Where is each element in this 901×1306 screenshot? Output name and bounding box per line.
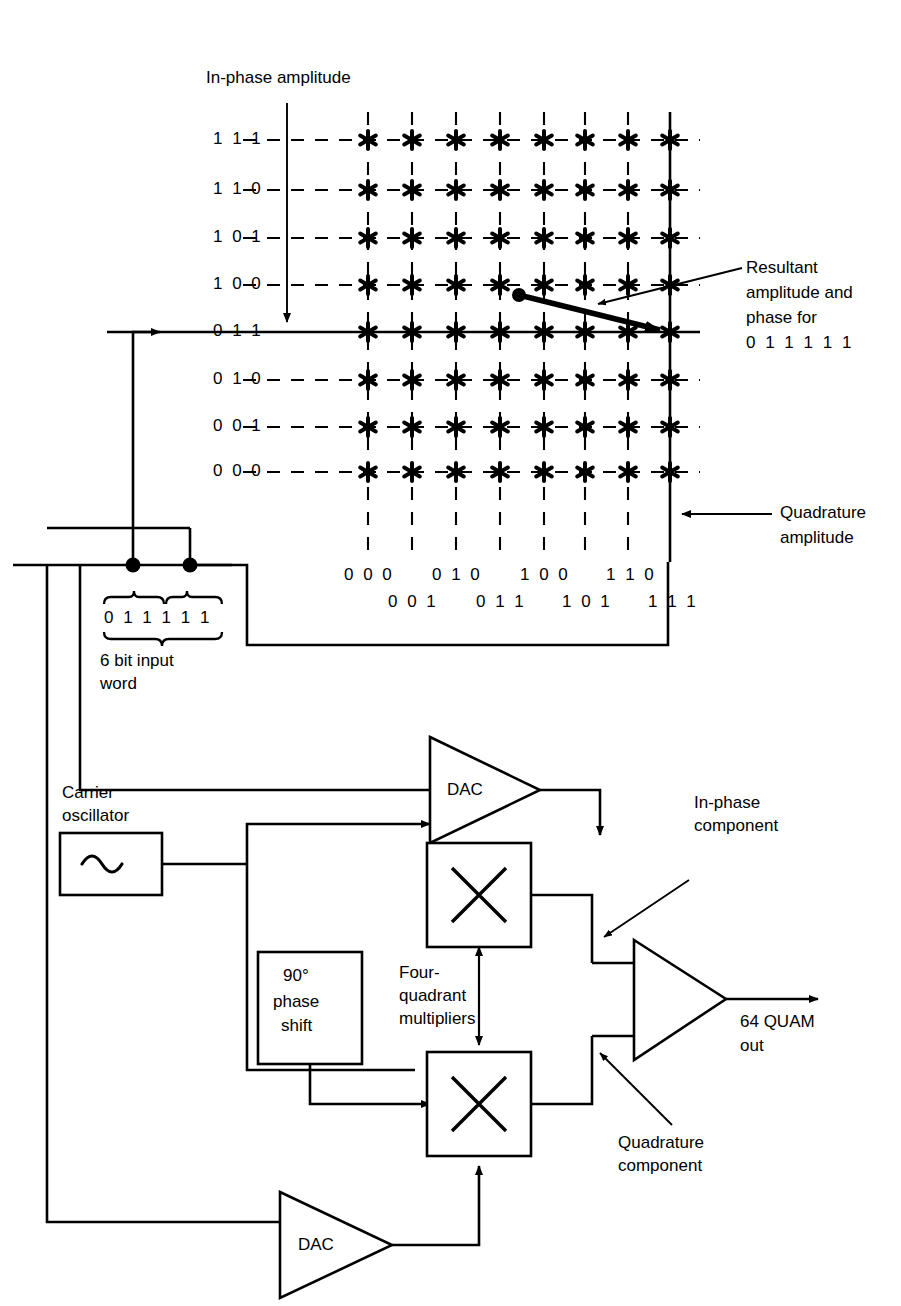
- carrier-oscillator-block: [60, 824, 430, 1070]
- y-label-010: 0 1 0: [213, 369, 263, 388]
- input-word-caption-2: word: [100, 674, 137, 693]
- wire-i-component: [531, 895, 592, 963]
- resultant-word: 0 1 1 1 1 1: [746, 333, 854, 352]
- phase-shift-line-1: 90°: [283, 966, 309, 985]
- inphase-component-1: In-phase: [694, 793, 760, 812]
- phase-shift-line-2: phase: [273, 992, 319, 1011]
- x-label-100: 1 0 0: [520, 565, 570, 584]
- x-label-000: 0 0 0: [344, 565, 394, 584]
- inphase-component-2: component: [694, 816, 778, 835]
- resultant-vector: [519, 295, 660, 330]
- carrier-label-1: Carrier: [62, 783, 114, 802]
- y-label-111: 1 1 1: [213, 129, 263, 148]
- quadrature-component-1: Quadrature: [618, 1133, 704, 1152]
- output-label-1: 64 QUAM: [740, 1012, 815, 1031]
- y-label-000: 0 0 0: [213, 461, 263, 480]
- resultant-line-1: Resultant: [746, 258, 818, 277]
- multiplier-inphase: [427, 843, 634, 963]
- qam-modulator-diagram: In-phase amplitude 1 1 1 1 1 0 1 0 1 1 0…: [0, 0, 901, 1306]
- fq-caption-2: quadrant: [399, 986, 466, 1005]
- x-label-001: 0 0 1: [388, 592, 438, 611]
- x-label-111: 1 1 1: [648, 592, 698, 611]
- fq-caption-1: Four-: [399, 963, 440, 982]
- y-label-110: 1 1 0: [213, 179, 263, 198]
- phase-shift-line-3: shift: [281, 1016, 312, 1035]
- x-label-010: 0 1 0: [432, 565, 482, 584]
- carrier-label-2: oscillator: [62, 806, 129, 825]
- y-label-011: 0 1 1: [213, 321, 263, 340]
- x-label-011: 0 1 1: [476, 592, 526, 611]
- input-wiring: [13, 332, 668, 1222]
- dac-bottom-label: DAC: [298, 1235, 334, 1254]
- quadrature-component-2: component: [618, 1156, 702, 1175]
- constellation-grid: [107, 112, 742, 562]
- inphase-component-leader: [604, 880, 689, 937]
- wire-i-to-row: [133, 332, 160, 520]
- input-word-bits: 0 1 1 1 1 1: [104, 608, 212, 627]
- junction-dot-q: [183, 558, 198, 573]
- input-word-caption-1: 6 bit input: [100, 651, 174, 670]
- y-label-101: 1 0 1: [213, 227, 263, 246]
- wire-dac-bottom-out: [392, 1166, 479, 1245]
- wire-q-component: [531, 1036, 592, 1104]
- multiplier-quadrature: [427, 1036, 634, 1156]
- quadrature-amplitude-line-1: Quadrature: [780, 503, 866, 522]
- quadrature-component-leader: [600, 1053, 672, 1125]
- wire-dac-top-out: [540, 790, 600, 835]
- output-label-2: out: [740, 1036, 764, 1055]
- wire-carrier-to-mult1: [247, 824, 430, 864]
- y-label-100: 1 0 0: [213, 274, 263, 293]
- x-label-101: 1 0 1: [562, 592, 612, 611]
- constellation-points: [360, 131, 678, 481]
- y-label-001: 0 0 1: [213, 416, 263, 435]
- summing-amplifier: [634, 940, 818, 1060]
- quadrature-amplitude-line-2: amplitude: [780, 528, 854, 547]
- inphase-amplitude-label: In-phase amplitude: [206, 68, 351, 87]
- dac-bottom: [280, 1166, 479, 1298]
- x-label-110: 1 1 0: [606, 565, 656, 584]
- resultant-line-2: amplitude and: [746, 283, 853, 302]
- dac-top-label: DAC: [447, 780, 483, 799]
- fq-caption-3: multipliers: [399, 1009, 476, 1028]
- resultant-line-3: phase for: [746, 308, 817, 327]
- junction-dot-i: [126, 558, 141, 573]
